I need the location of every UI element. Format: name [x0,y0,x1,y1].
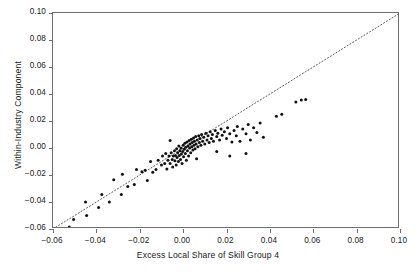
scatter-point [187,155,190,158]
y-tick-mark [49,67,53,68]
scatter-point [175,163,178,166]
scatter-point [72,218,75,221]
y-tick-label: 0.08 [30,34,46,43]
scatter-point [166,159,169,162]
scatter-point [151,171,154,174]
scatter-point [121,173,124,176]
y-tick-label: −0.02 [25,169,46,178]
scatter-point [226,126,229,129]
y-tick-label: 0.04 [30,88,46,97]
scatter-point [252,126,255,129]
scatter-point [233,129,236,132]
x-tick-mark [183,229,184,233]
scatter-point [235,134,238,137]
scatter-point [195,142,198,145]
x-tick-label: −0.06 [30,236,74,245]
scatter-point [186,149,189,152]
scatter-point [164,152,167,155]
scatter-point [300,99,303,102]
scatter-point [255,131,258,134]
scatter-point [85,214,88,217]
x-tick-label: 0.00 [160,236,204,245]
scatter-point [247,123,250,126]
scatter-point [133,183,136,186]
scatter-point [215,135,218,138]
scatter-point [200,133,203,136]
scatter-point [215,150,218,153]
x-tick-label: 0.02 [204,236,248,245]
plot-frame [52,12,399,228]
scatter-point [195,157,198,160]
scatter-point [201,140,204,143]
y-axis-label: Within-Industry Component [13,20,23,210]
y-tick-mark [49,94,53,95]
scatter-point [196,138,199,141]
scatter-point [196,145,199,148]
scatter-point [193,140,196,143]
x-tick-mark [313,229,314,233]
scatter-point [178,149,181,152]
scatter-point [179,147,182,150]
x-tick-label: −0.04 [73,236,117,245]
scatter-point [218,138,221,141]
x-tick-label: −0.02 [117,236,161,245]
scatter-point [210,137,213,140]
scatter-point [161,155,164,158]
plot-area [53,13,398,227]
scatter-point [155,168,158,171]
scatter-point [236,125,239,128]
y-tick-mark [49,13,53,14]
y-tick-mark [49,175,53,176]
x-axis-label: Excess Local Share of Skill Group 4 [0,250,416,260]
scatter-point [238,140,241,143]
scatter-point [140,170,143,173]
scatter-chart-figure: −0.06−0.04−0.020.000.020.040.060.080.10−… [0,0,416,271]
scatter-point [179,158,182,161]
scatter-point [135,168,138,171]
scatter-point [221,134,224,137]
scatter-point [259,122,262,125]
scatter-point [163,162,166,165]
scatter-point [189,151,192,154]
x-tick-mark [96,229,97,233]
scatter-point [194,147,197,150]
scatter-point [175,147,178,150]
scatter-point [214,129,217,132]
x-tick-mark [227,229,228,233]
scatter-point [294,101,297,104]
plot-svg [53,13,398,227]
scatter-point [184,152,187,155]
scatter-point [170,151,173,154]
scatter-series-0 [68,98,307,227]
scatter-point [126,185,129,188]
scatter-point [245,152,248,155]
scatter-point [208,141,211,144]
scatter-point [197,134,200,137]
scatter-point [165,167,168,170]
scatter-point [84,201,87,204]
y-tick-label: 0.02 [30,115,46,124]
scatter-point [108,201,111,204]
scatter-point [220,128,223,131]
scatter-point [181,162,184,165]
scatter-point [180,153,183,156]
scatter-point [203,142,206,145]
scatter-point [280,113,283,116]
scatter-point [169,139,172,142]
scatter-point [245,132,248,135]
scatter-point [275,115,278,118]
scatter-point [199,137,202,140]
y-tick-label: 0.06 [30,61,46,70]
scatter-point [216,132,219,135]
scatter-point [120,193,123,196]
scatter-point [205,138,208,141]
scatter-point [100,193,103,196]
scatter-point [182,155,185,158]
y-tick-label: −0.04 [25,196,46,205]
scatter-point [230,140,233,143]
scatter-point [204,132,207,135]
scatter-point [198,141,201,144]
scatter-point [173,159,176,162]
scatter-point [209,130,212,133]
scatter-point [157,159,160,162]
